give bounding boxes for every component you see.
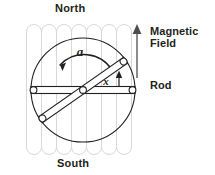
- distance-symbol: x: [102, 75, 109, 87]
- north-pole-label: North: [55, 3, 85, 15]
- angular-acceleration-symbol: a: [77, 44, 84, 59]
- magnetic-field-arrowhead: [133, 24, 142, 34]
- rod-label: Rod: [150, 80, 172, 92]
- magnetic-field-label: Magnetic Field: [150, 26, 198, 50]
- rod-ring-right: [129, 87, 136, 94]
- rod-pivot: [80, 87, 87, 94]
- south-pole-label: South: [57, 158, 89, 170]
- rod-ring-left: [30, 87, 37, 94]
- figure-canvas: a x North South Magnetic Field Rod: [0, 0, 215, 175]
